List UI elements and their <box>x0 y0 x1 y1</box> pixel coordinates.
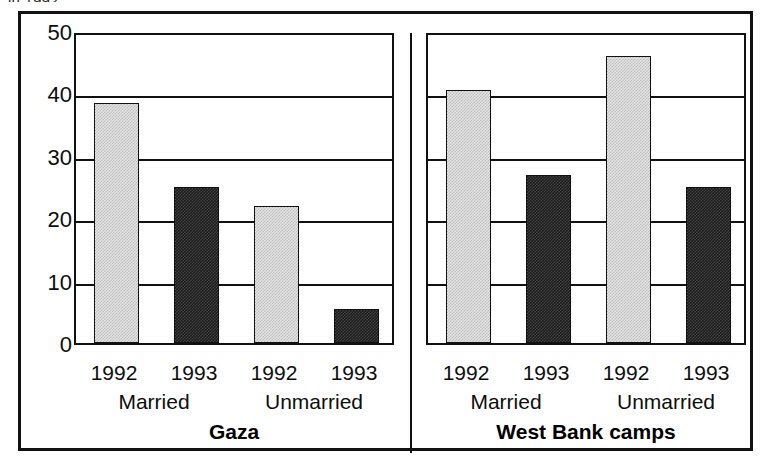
gridline <box>76 96 392 98</box>
x-axis-group-label: Unmarried <box>265 390 363 414</box>
x-axis-category-label: 1992 <box>251 361 298 385</box>
x-axis-group-label: Married <box>118 390 189 414</box>
panel-title: West Bank camps <box>496 420 675 444</box>
bar <box>446 90 491 343</box>
x-axis-category-label: 1993 <box>331 361 378 385</box>
bar <box>686 187 731 343</box>
bar <box>606 56 651 343</box>
y-axis-tick-label: 30 <box>28 147 72 169</box>
bar <box>174 187 219 343</box>
x-axis-category-label: 1993 <box>683 361 730 385</box>
panel-title: Gaza <box>209 420 259 444</box>
chart-panel-west-bank-camps <box>426 33 746 345</box>
bar <box>334 309 379 343</box>
x-axis-category-label: 1993 <box>523 361 570 385</box>
chart-panel-gaza <box>74 33 394 345</box>
chart-plot-area: 01020304050 1992199319921993MarriedUnmar… <box>0 0 771 467</box>
bar <box>526 175 571 343</box>
y-axis-tick-label: 10 <box>28 272 72 294</box>
x-axis-category-label: 1993 <box>171 361 218 385</box>
x-axis-category-label: 1992 <box>603 361 650 385</box>
bar <box>94 103 139 343</box>
panel-divider <box>410 33 412 453</box>
y-axis-tick-label: 20 <box>28 209 72 231</box>
y-axis-tick-label: 40 <box>28 84 72 106</box>
y-axis-tick-labels: 01020304050 <box>24 0 72 467</box>
x-axis-group-label: Unmarried <box>617 390 715 414</box>
bar <box>254 206 299 343</box>
y-axis-tick-label: 0 <box>28 334 72 356</box>
x-axis-category-label: 1992 <box>91 361 138 385</box>
y-axis-tick-label: 50 <box>28 22 72 44</box>
x-axis-group-label: Married <box>470 390 541 414</box>
x-axis-category-label: 1992 <box>443 361 490 385</box>
